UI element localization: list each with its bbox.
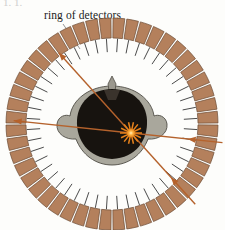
detector-tick bbox=[41, 77, 52, 85]
detector-tick bbox=[117, 196, 118, 209]
detector-segment[interactable] bbox=[197, 111, 218, 123]
detector-tick bbox=[177, 156, 189, 162]
detector-tick bbox=[95, 40, 98, 53]
detector-tick bbox=[135, 192, 139, 205]
detector-tick bbox=[74, 189, 80, 201]
detector-tick bbox=[56, 178, 65, 188]
detector-tick bbox=[135, 43, 139, 56]
detector-tick bbox=[106, 196, 107, 209]
detector-tick bbox=[41, 164, 52, 172]
detector-tick bbox=[48, 68, 58, 77]
detector-tick bbox=[35, 86, 47, 92]
detector-tick bbox=[172, 164, 183, 172]
caption-fragment: 1. 1. bbox=[3, 0, 23, 8]
detector-tick bbox=[126, 195, 129, 208]
detector-segment[interactable] bbox=[99, 18, 111, 39]
detector-tick bbox=[65, 184, 73, 195]
detector-tick bbox=[27, 129, 40, 130]
detector-tick bbox=[152, 53, 160, 64]
detector-tick bbox=[177, 86, 189, 92]
pet-scanner-figure: 1. 1. ring of detectors bbox=[0, 0, 225, 230]
detector-tick bbox=[48, 171, 58, 180]
detector-tick bbox=[159, 60, 168, 70]
detector-tick bbox=[144, 189, 150, 201]
nose-shape bbox=[108, 76, 116, 91]
detector-tick bbox=[184, 129, 197, 130]
detector-tick bbox=[28, 138, 41, 141]
detector-tick bbox=[172, 77, 183, 85]
detector-tick bbox=[126, 40, 129, 53]
burst-core bbox=[127, 129, 135, 137]
detector-segment[interactable] bbox=[113, 209, 125, 230]
detector-tick bbox=[117, 39, 118, 52]
detector-tick bbox=[180, 97, 193, 101]
detector-segment[interactable] bbox=[99, 209, 111, 230]
detector-tick bbox=[95, 195, 98, 208]
detector-tick bbox=[56, 60, 65, 70]
detector-tick bbox=[106, 39, 107, 52]
figure-canvas: 1. 1. ring of detectors bbox=[0, 0, 225, 230]
detector-tick bbox=[159, 178, 168, 188]
detector-tick bbox=[31, 97, 44, 101]
detector-tick bbox=[184, 118, 197, 119]
detector-segment[interactable] bbox=[113, 18, 125, 39]
detector-tick bbox=[144, 47, 150, 59]
detector-segment[interactable] bbox=[6, 125, 27, 137]
detector-tick bbox=[27, 118, 40, 119]
patient-head-group bbox=[57, 76, 167, 165]
detector-tick bbox=[31, 147, 44, 151]
detector-segment[interactable] bbox=[197, 125, 218, 137]
detector-tick bbox=[28, 107, 41, 110]
detector-tick bbox=[166, 68, 176, 77]
detector-tick bbox=[74, 47, 80, 59]
detector-tick bbox=[152, 184, 160, 195]
detector-tick bbox=[35, 156, 47, 162]
detector-tick bbox=[180, 147, 193, 151]
detector-tick bbox=[183, 107, 196, 110]
detector-tick bbox=[85, 43, 89, 56]
detector-tick bbox=[85, 192, 89, 205]
